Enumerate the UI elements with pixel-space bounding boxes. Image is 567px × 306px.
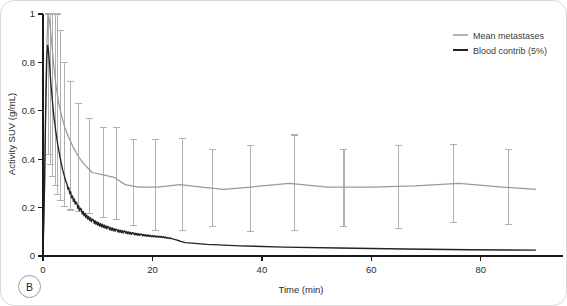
y-tick-label: 0.4 — [22, 154, 35, 165]
panel-letter-badge: B — [18, 275, 41, 298]
x-tick-label: 40 — [257, 264, 268, 275]
figure-panel-b: 00.20.40.60.81 020406080 Time (min) Acti… — [0, 0, 567, 306]
y-tick-label: 0.2 — [22, 202, 35, 213]
y-axis-title: Activity SUV (g/mL) — [6, 93, 17, 175]
x-axis-title: Time (min) — [278, 284, 323, 295]
legend-label-mean-metastases: Mean metastases — [473, 31, 545, 41]
y-tick-label: 0 — [30, 250, 35, 261]
errorbar-group — [45, 14, 512, 232]
y-tick-label: 0.6 — [22, 105, 35, 116]
chart-canvas: 00.20.40.60.81 020406080 Time (min) Acti… — [1, 1, 567, 306]
x-axis-ticks: 020406080 — [40, 256, 486, 275]
x-tick-label: 0 — [40, 264, 45, 275]
y-axis-ticks: 00.20.40.60.81 — [22, 8, 43, 261]
x-tick-label: 20 — [147, 264, 158, 275]
chart-legend: Mean metastases Blood contrib (5%) — [453, 31, 547, 56]
y-tick-label: 1 — [30, 8, 35, 19]
x-tick-label: 60 — [366, 264, 377, 275]
legend-label-blood-contrib: Blood contrib (5%) — [473, 46, 547, 56]
y-tick-label: 0.8 — [22, 57, 35, 68]
x-tick-label: 80 — [476, 264, 487, 275]
